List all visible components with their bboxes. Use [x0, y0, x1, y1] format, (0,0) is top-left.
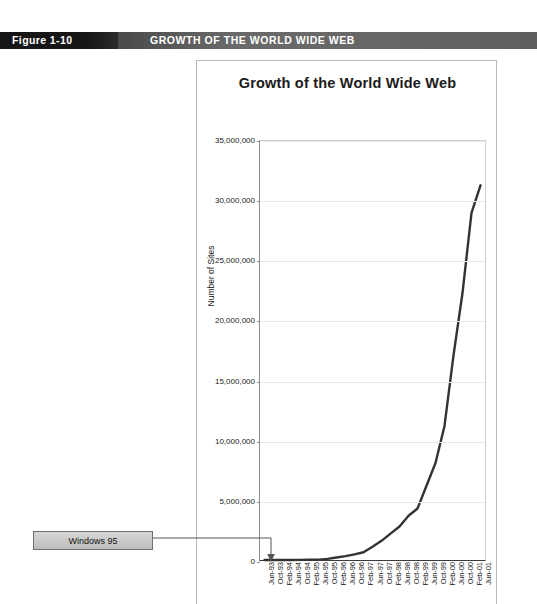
figure-caption-bar: Figure 1-10 GROWTH OF THE WORLD WIDE WEB: [0, 32, 537, 49]
y-axis-tick-mark: [257, 201, 260, 202]
x-axis-tick-label: Jun-96: [348, 562, 357, 585]
annotation-label: Windows 95: [68, 536, 117, 546]
y-axis-tick-label: 35,000,000: [215, 136, 255, 145]
x-axis-tick-label: Oct-94: [303, 562, 312, 584]
gridline: [260, 141, 485, 142]
plot-area: [259, 140, 486, 561]
x-axis-tick-label: Jun-94: [294, 562, 303, 585]
y-axis-tick-mark: [257, 321, 260, 322]
x-axis-tick-label: Jun-00: [457, 562, 466, 585]
gridline: [260, 442, 485, 443]
gridline: [260, 201, 485, 202]
x-axis-tick-label: Feb-97: [366, 562, 375, 585]
y-axis-tick-mark: [257, 382, 260, 383]
figure-caption-text: GROWTH OF THE WORLD WIDE WEB: [118, 35, 355, 46]
annotation-windows-95: Windows 95: [33, 531, 153, 550]
y-axis-tick-label: 10,000,000: [215, 436, 255, 445]
x-axis-tick-label: Oct-96: [357, 562, 366, 584]
x-axis-tick-label: Oct-97: [385, 562, 394, 584]
y-axis-tick-label: 25,000,000: [215, 256, 255, 265]
x-axis-tick-label: Oct-95: [330, 562, 339, 584]
figure-number-block: Figure 1-10: [0, 32, 118, 49]
x-axis-tick-label: Feb-00: [448, 562, 457, 585]
gridline: [260, 321, 485, 322]
gridline: [260, 261, 485, 262]
y-axis-tick-label: 15,000,000: [215, 376, 255, 385]
gridline: [260, 382, 485, 383]
x-axis-tick-label: Oct-99: [439, 562, 448, 584]
x-axis-tick-label: Feb-99: [421, 562, 430, 585]
x-axis-tick-label: Jun-97: [376, 562, 385, 585]
y-axis-tick-mark: [257, 261, 260, 262]
figure-caption-block: GROWTH OF THE WORLD WIDE WEB: [118, 32, 537, 49]
y-axis-tick-column: 05,000,00010,000,00015,000,00020,000,000…: [197, 140, 255, 561]
x-axis-tick-label: Jun-93: [267, 562, 276, 585]
x-axis-tick-label: Oct-93: [276, 562, 285, 584]
y-axis-tick-label: 30,000,000: [215, 196, 255, 205]
y-axis-tick-mark: [257, 141, 260, 142]
y-axis-tick-mark: [257, 502, 260, 503]
x-axis-tick-row: Jun-93Oct-93Feb-94Jun-94Oct-94Feb-95Jun-…: [259, 562, 486, 604]
annotation-leader-line: [153, 534, 323, 564]
figure-number: Figure 1-10: [0, 35, 72, 46]
chart-title: Growth of the World Wide Web: [197, 75, 498, 91]
x-axis-tick-label: Jun-99: [430, 562, 439, 585]
x-axis-tick-label: Jun-01: [484, 562, 493, 585]
y-axis-title: Number of Sites: [206, 226, 216, 326]
chart-container: Growth of the World Wide Web 05,000,0001…: [196, 60, 497, 604]
x-axis-tick-label: Feb-95: [312, 562, 321, 585]
x-axis-tick-label: Feb-96: [339, 562, 348, 585]
x-axis-tick-label: Oct-00: [466, 562, 475, 584]
y-axis-tick-label: 5,000,000: [219, 496, 255, 505]
x-axis-tick-label: Jun-98: [403, 562, 412, 585]
y-axis-tick-label: 20,000,000: [215, 316, 255, 325]
x-axis-tick-label: Feb-98: [394, 562, 403, 585]
gridline: [260, 502, 485, 503]
series-line-web-sites: [260, 141, 485, 560]
x-axis-tick-label: Oct-98: [412, 562, 421, 584]
y-axis-tick-mark: [257, 442, 260, 443]
x-axis-tick-label: Feb-94: [285, 562, 294, 585]
x-axis-tick-label: Jun-95: [321, 562, 330, 585]
